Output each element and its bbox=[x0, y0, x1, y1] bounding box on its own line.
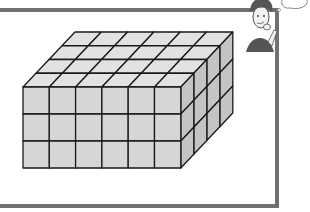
cube-front-face bbox=[49, 87, 75, 114]
cube-front-face bbox=[155, 114, 181, 141]
cube-front-face bbox=[128, 87, 154, 114]
cube-front-face bbox=[49, 114, 75, 141]
cube-front-face bbox=[23, 114, 49, 141]
cube-front-face bbox=[102, 114, 128, 141]
cube-prism-diagram bbox=[0, 0, 310, 212]
cube-front-face bbox=[102, 87, 128, 114]
cube-front-face bbox=[155, 141, 181, 168]
cube-front-face bbox=[23, 87, 49, 114]
cube-front-face bbox=[128, 141, 154, 168]
cube-front-face bbox=[49, 141, 75, 168]
cube-front-face bbox=[76, 87, 102, 114]
cube-front-face bbox=[155, 87, 181, 114]
rectangular-prism bbox=[23, 32, 233, 168]
cube-front-face bbox=[23, 141, 49, 168]
cube-front-face bbox=[76, 141, 102, 168]
thought-bubble-icon bbox=[278, 0, 308, 12]
cube-front-face bbox=[128, 114, 154, 141]
thinking-boy-icon bbox=[246, 0, 277, 52]
cube-front-face bbox=[102, 141, 128, 168]
cube-front-face bbox=[76, 114, 102, 141]
